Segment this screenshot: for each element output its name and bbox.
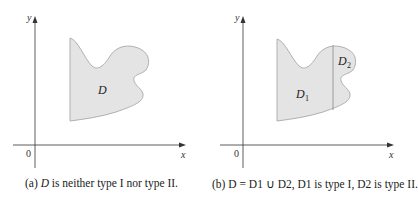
x-axis-arrow-icon bbox=[387, 143, 394, 148]
caption-a-prefix: (a) bbox=[25, 177, 41, 189]
origin-label: 0 bbox=[234, 148, 239, 159]
y-axis-label: y bbox=[26, 12, 32, 23]
region-d1-subscript: 1 bbox=[305, 94, 309, 103]
x-axis-arrow-icon bbox=[179, 143, 186, 148]
region-d-label: D bbox=[97, 83, 107, 97]
region-d2-subscript: 2 bbox=[347, 61, 351, 70]
x-axis-label: x bbox=[180, 149, 186, 160]
panel-b: y x 0 D 1 D 2 (b) D = D1 ∪ D2, D1 is typ… bbox=[208, 0, 416, 199]
y-axis-label: y bbox=[234, 12, 240, 23]
origin-label: 0 bbox=[26, 148, 31, 159]
caption-a-rest: is neither type I nor type II. bbox=[49, 177, 178, 189]
y-axis-arrow-icon bbox=[241, 16, 246, 23]
caption-b: (b) D = D1 ∪ D2, D1 is type I, D2 is typ… bbox=[212, 177, 418, 191]
y-axis-arrow-icon bbox=[33, 16, 38, 23]
panel-a-diagram: y x 0 D bbox=[0, 0, 208, 199]
panel-b-diagram: y x 0 D 1 D 2 bbox=[208, 0, 416, 199]
region-d2-label: D bbox=[337, 54, 347, 68]
x-axis-label: x bbox=[388, 149, 394, 160]
caption-a: (a) D is neither type I nor type II. bbox=[25, 177, 178, 189]
panel-a: y x 0 D (a) D is neither type I nor type… bbox=[0, 0, 208, 199]
caption-a-var: D bbox=[41, 177, 49, 189]
region-d1-label: D bbox=[295, 87, 305, 101]
region-d bbox=[277, 39, 356, 121]
region-d bbox=[70, 38, 149, 121]
